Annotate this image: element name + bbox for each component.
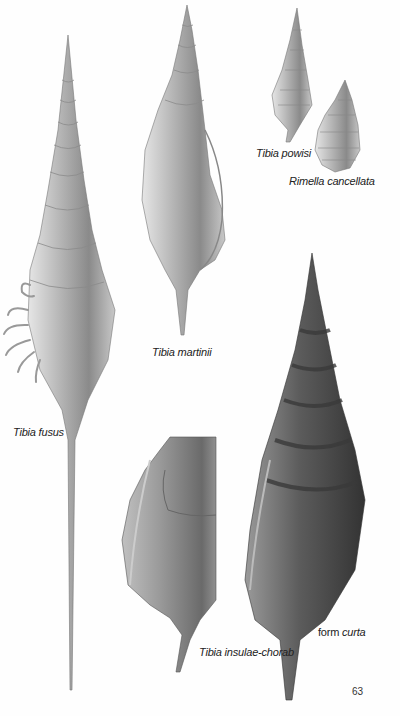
- label-tibia-fusus: Tibia fusus: [13, 426, 64, 438]
- label-tibia-powisi: Tibia powisi: [256, 147, 311, 159]
- label-curta: curta: [342, 626, 365, 638]
- shell-tibia-insulae-chorab: [122, 437, 216, 672]
- label-form-prefix: form: [318, 626, 339, 638]
- shell-tibia-powisi: [272, 8, 312, 142]
- page-number: 63: [352, 686, 363, 697]
- shell-tibia-fusus: [4, 35, 115, 690]
- shell-tibia-martinii: [142, 5, 225, 335]
- shell-rimella-cancellata: [315, 80, 360, 172]
- shell-illustrations: [0, 0, 400, 716]
- label-rimella-cancellata: Rimella cancellata: [289, 175, 375, 187]
- book-page: Tibia powisi Rimella cancellata Tibia ma…: [0, 0, 400, 716]
- label-form-curta: form curta: [318, 626, 366, 638]
- label-tibia-insulae-chorab: Tibia insulae-chorab: [199, 646, 294, 658]
- label-tibia-martinii: Tibia martinii: [152, 346, 211, 358]
